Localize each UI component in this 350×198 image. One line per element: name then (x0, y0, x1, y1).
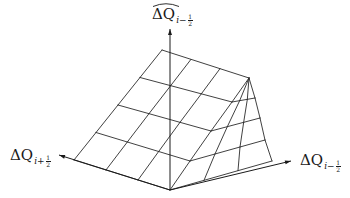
right-axis-label: ΔQi−12 (300, 153, 341, 169)
left-face-column-line (201, 69, 220, 94)
left-axis-line (59, 155, 170, 190)
hat-group: ΔQ (152, 7, 175, 22)
surface-diagram (0, 0, 350, 198)
right-face-column-line (260, 118, 265, 140)
right-face-column-line (255, 98, 260, 118)
left-face-column-line (138, 152, 159, 181)
right-axis-arrow-icon (285, 160, 291, 164)
right-axis-line (170, 161, 291, 190)
right-face-column-line (249, 78, 255, 98)
fraction: 12 (188, 14, 193, 27)
left-face-column-line (118, 78, 140, 106)
left-face-column-line (127, 114, 149, 142)
left-axis-arrow-icon (59, 155, 65, 159)
right-face-grid (170, 78, 272, 190)
right-face-column-line (238, 147, 240, 171)
vertical-axis-arrow-icon (168, 29, 172, 35)
left-axis-label: ΔQi+12 (10, 148, 51, 164)
left-face-row-line (118, 105, 211, 131)
right-face-column-line (227, 101, 239, 127)
hat-accent-icon (152, 2, 180, 7)
right-face-column-line (204, 154, 215, 180)
subscript-index: i− (176, 15, 186, 25)
subscript: i−12 (176, 15, 192, 25)
right-face-column-line (265, 140, 272, 161)
right-face-row-line (190, 140, 265, 161)
fraction-denominator: 2 (336, 167, 340, 173)
right-face-row-line (170, 161, 272, 190)
fraction-denominator: 2 (188, 21, 192, 27)
left-face-row-line (96, 133, 190, 162)
right-face-row-line (211, 118, 260, 131)
left-face-column-line (74, 133, 96, 161)
left-face-column-line (171, 59, 191, 85)
delta-symbol: ΔQ (300, 151, 323, 169)
left-face-column-line (159, 122, 180, 151)
left-face-column-line (106, 142, 127, 170)
delta-symbol: ΔQ (10, 146, 33, 164)
left-face-row-line (162, 50, 249, 78)
left-face-column-line (180, 94, 201, 123)
subscript: i+12 (34, 156, 50, 166)
left-face-grid (74, 50, 249, 190)
left-face-row-line (140, 78, 232, 103)
left-face-column-line (190, 131, 211, 161)
left-face-column-line (140, 50, 162, 78)
fraction: 12 (46, 155, 51, 168)
fraction: 12 (336, 160, 341, 173)
right-face-column-line (244, 99, 248, 122)
left-face-column-line (96, 105, 118, 133)
left-face-column-line (149, 86, 171, 114)
subscript-index: i− (324, 161, 334, 171)
subscript-index: i+ (34, 156, 44, 166)
right-face-column-line (215, 127, 227, 154)
vertical-axis-label: ΔQ i−12 (152, 7, 193, 23)
subscript: i−12 (324, 161, 340, 171)
right-face-row-line (232, 98, 255, 102)
right-face-column-line (240, 122, 244, 147)
fraction-denominator: 2 (46, 162, 50, 168)
delta-symbol: ΔQ (152, 5, 175, 23)
